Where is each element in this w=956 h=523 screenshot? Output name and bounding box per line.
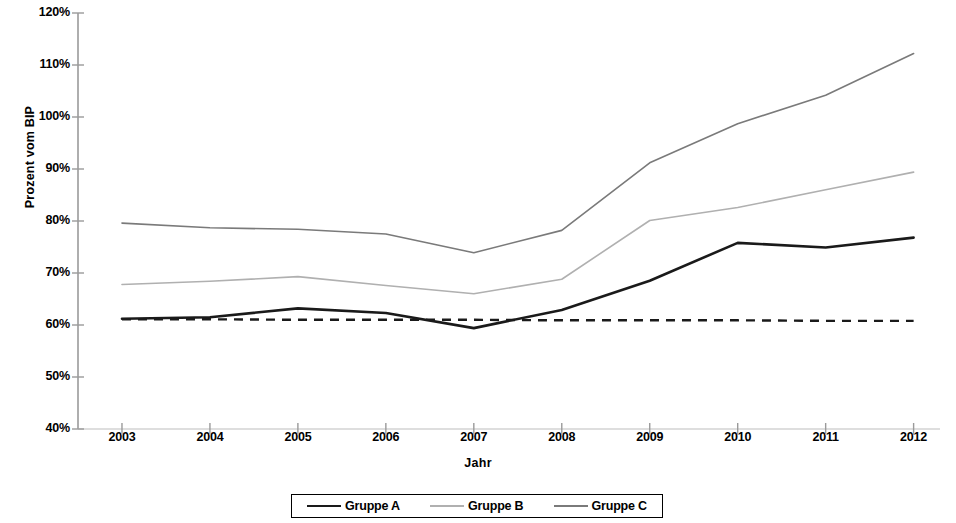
legend-entry[interactable]: Gruppe B (430, 499, 523, 513)
chart-legend: Gruppe AGruppe BGruppe C (291, 494, 663, 518)
legend-swatch-icon (554, 505, 588, 507)
series-line-gruppe-a (122, 238, 914, 328)
legend-entry[interactable]: Gruppe A (307, 499, 400, 513)
plot-area (0, 0, 956, 523)
line-chart: Prozent vom BIP Jahr 40%50%60%70%80%90%1… (0, 0, 956, 523)
series-line-gruppe-c (122, 54, 914, 253)
series-line-gruppe-b (122, 172, 914, 294)
legend-label: Gruppe B (468, 499, 523, 513)
legend-entry[interactable]: Gruppe C (554, 499, 647, 513)
legend-swatch-icon (307, 505, 341, 507)
legend-swatch-icon (430, 505, 464, 507)
legend-label: Gruppe C (592, 499, 647, 513)
legend-label: Gruppe A (345, 499, 400, 513)
